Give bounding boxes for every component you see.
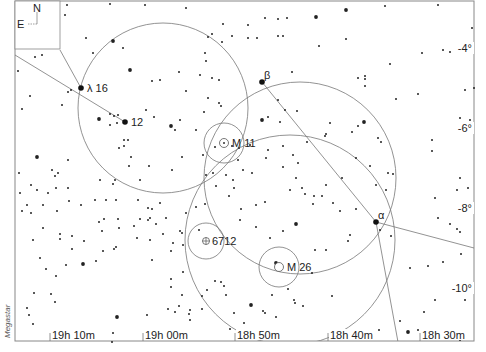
star <box>277 35 279 37</box>
star <box>29 95 31 97</box>
star <box>442 49 444 51</box>
star <box>178 71 180 73</box>
star <box>220 281 222 283</box>
star <box>116 122 118 124</box>
star <box>264 312 266 314</box>
star <box>225 174 227 176</box>
star <box>50 293 52 295</box>
star <box>21 108 23 110</box>
credit-label: Megastar <box>3 304 12 338</box>
star <box>325 249 327 251</box>
star <box>112 183 114 185</box>
star <box>18 172 20 174</box>
star <box>218 102 220 104</box>
star <box>242 169 244 171</box>
star <box>247 37 249 39</box>
star <box>30 212 32 214</box>
star <box>364 78 366 80</box>
star <box>301 187 303 189</box>
star <box>357 125 359 127</box>
star <box>392 173 394 175</box>
star <box>136 237 138 239</box>
star <box>349 234 351 236</box>
star <box>427 265 429 267</box>
star <box>179 230 181 232</box>
star <box>128 68 132 72</box>
star <box>171 169 173 171</box>
x-tick-label: 19h 10m <box>52 329 95 341</box>
star <box>262 310 264 312</box>
star <box>255 204 257 206</box>
star <box>101 230 103 232</box>
star <box>41 54 43 56</box>
star <box>325 184 327 186</box>
star <box>220 105 222 107</box>
star <box>406 330 410 334</box>
star <box>467 187 469 189</box>
star <box>205 174 207 176</box>
star <box>215 185 217 187</box>
star <box>54 301 56 303</box>
star <box>64 14 66 16</box>
star <box>302 305 304 307</box>
star <box>291 71 293 73</box>
star <box>207 36 209 38</box>
star <box>127 139 129 141</box>
star <box>42 204 44 206</box>
star <box>277 18 279 20</box>
star <box>172 242 174 244</box>
compass-east: E <box>17 18 24 30</box>
star <box>275 316 277 318</box>
star <box>118 227 120 229</box>
object-m-26: M 26 <box>275 261 312 273</box>
star <box>313 195 315 197</box>
star <box>297 162 299 164</box>
star <box>155 223 157 225</box>
star <box>292 154 294 156</box>
star <box>201 308 203 310</box>
star <box>294 302 296 304</box>
star <box>67 91 69 93</box>
star <box>123 145 125 147</box>
star <box>456 189 458 191</box>
star <box>32 323 34 325</box>
star <box>33 292 35 294</box>
star <box>341 177 343 179</box>
star <box>59 233 61 235</box>
star <box>103 218 105 220</box>
star <box>170 278 172 280</box>
star <box>264 201 266 203</box>
star <box>434 299 436 301</box>
star <box>473 87 475 89</box>
star <box>179 119 181 121</box>
star <box>279 121 281 123</box>
star <box>122 47 124 49</box>
star <box>294 222 298 226</box>
star <box>377 137 379 139</box>
star <box>99 179 101 181</box>
star <box>42 227 44 229</box>
star <box>137 199 139 201</box>
star <box>71 235 73 237</box>
star <box>185 7 187 9</box>
star <box>387 172 389 174</box>
star <box>189 309 191 311</box>
star <box>329 122 331 124</box>
star <box>205 60 207 62</box>
star <box>147 207 149 209</box>
star <box>231 35 233 37</box>
star <box>115 246 117 248</box>
star <box>148 165 150 167</box>
star <box>239 219 241 221</box>
star <box>117 218 119 220</box>
star <box>237 159 239 161</box>
star <box>221 41 223 43</box>
star <box>109 124 111 126</box>
star <box>185 90 187 92</box>
star <box>417 93 419 95</box>
object-label: α <box>378 209 385 221</box>
star <box>67 159 69 161</box>
star <box>202 154 204 156</box>
star <box>123 139 125 141</box>
star <box>174 311 176 313</box>
